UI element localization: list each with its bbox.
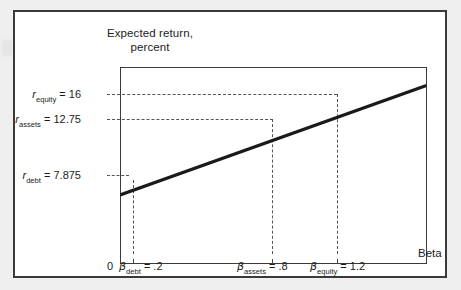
x-label-assets: βassets = .8 — [237, 260, 288, 273]
chart-title-line-2: percent — [55, 40, 245, 54]
x-label-assets-value: = .8 — [269, 260, 288, 272]
x-label-debt: βdebt = .2 — [119, 260, 163, 273]
x-label-assets-subscript: assets — [244, 267, 266, 276]
figure-frame: Expected return, percent requity = 16 ra… — [13, 10, 447, 278]
y-label-assets-subscript: assets — [19, 120, 41, 129]
guide-line-debt-vertical — [133, 180, 134, 254]
y-label-assets-value: = 12.75 — [44, 113, 81, 125]
plot-area — [120, 67, 427, 264]
chart-title-line-1: Expected return, — [107, 27, 193, 39]
x-label-equity-value: = 1.2 — [340, 260, 365, 272]
x-label-equity-symbol: β — [310, 260, 317, 273]
guide-line-assets-horizontal — [107, 119, 273, 120]
y-label-equity: requity = 16 — [0, 88, 81, 100]
y-label-debt-value: = 7.875 — [44, 169, 81, 181]
y-label-debt-subscript: debt — [26, 176, 41, 185]
x-label-debt-value: = .2 — [144, 260, 163, 272]
y-label-debt: rdebt = 7.875 — [0, 169, 81, 181]
x-label-equity-subscript: equity — [317, 267, 337, 276]
guide-line-equity-vertical — [337, 94, 338, 254]
chart-title: Expected return, percent — [55, 26, 245, 54]
figure-root: Expected return, percent requity = 16 ra… — [0, 0, 461, 290]
guide-line-assets-vertical — [272, 119, 273, 254]
guide-line-equity-horizontal — [107, 94, 337, 95]
guide-line-debt-horizontal — [107, 175, 129, 176]
y-label-equity-subscript: equity — [36, 95, 56, 104]
y-label-equity-value: = 16 — [59, 88, 81, 100]
y-label-assets: rassets = 12.75 — [0, 113, 81, 125]
x-label-origin: 0 — [107, 260, 113, 272]
x-label-debt-symbol: β — [119, 260, 126, 273]
x-label-debt-subscript: debt — [126, 267, 141, 276]
x-label-equity: βequity = 1.2 — [310, 260, 365, 273]
x-axis-name: Beta — [418, 247, 442, 259]
x-label-assets-symbol: β — [237, 260, 244, 273]
